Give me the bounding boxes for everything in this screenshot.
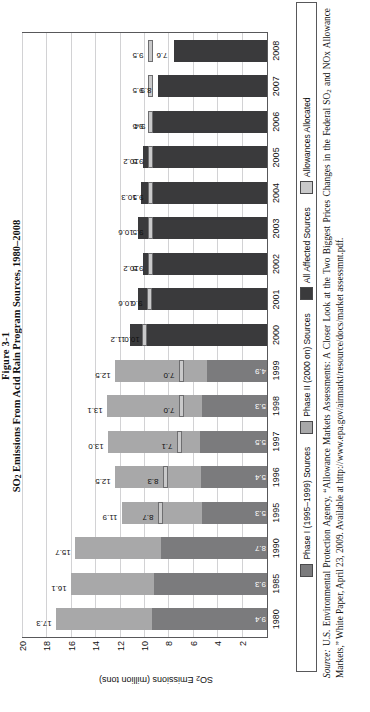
bar-column[interactable]: 9.610.62001 bbox=[23, 288, 267, 310]
legend-swatch-phase-i bbox=[300, 564, 313, 577]
allowances-allocated-marker bbox=[147, 288, 152, 310]
chart-plot-area: SO2 Emissions (million tons) 20181614121… bbox=[22, 32, 290, 678]
bar-segment-phase-i: 5.3 bbox=[202, 502, 267, 524]
legend-swatch-phase-ii bbox=[300, 421, 313, 434]
bar-column[interactable]: 9.58.92007 bbox=[23, 75, 267, 97]
bar-column[interactable]: 10.011.22000 bbox=[23, 324, 267, 346]
y-axis-tick: 2 bbox=[238, 641, 248, 646]
bar-column[interactable]: 5.38.711.91995 bbox=[23, 502, 267, 524]
bar-segment-phase-ii bbox=[71, 573, 154, 595]
bar-total-label: 15.7 bbox=[56, 548, 72, 557]
source-prefix: Source: bbox=[322, 649, 332, 678]
bar-segment-phase-i: 5.4 bbox=[201, 466, 267, 488]
bar-segment-all-affected bbox=[138, 217, 267, 239]
bar-total-label: 11.9 bbox=[102, 513, 117, 522]
allowances-allocated-marker bbox=[148, 253, 153, 275]
x-axis-tick: 2001 bbox=[271, 289, 281, 309]
legend-item-label: Phase II (2000 on) Sources bbox=[302, 313, 312, 416]
bar-value-label-phase-i: 9.3 bbox=[255, 579, 266, 588]
bar-column[interactable]: 9.510.22002 bbox=[23, 253, 267, 275]
bar-total-label: 16.1 bbox=[51, 584, 67, 593]
bar-segment-phase-ii bbox=[115, 360, 208, 382]
legend-swatch-all-affected bbox=[300, 287, 313, 300]
y-axis-tick: 8 bbox=[164, 641, 174, 646]
bar-segment-all-affected bbox=[143, 253, 267, 275]
x-axis-tick: 2005 bbox=[271, 147, 281, 167]
allowances-value-label: 9.5 bbox=[133, 228, 144, 237]
x-axis-tick: 2007 bbox=[271, 76, 281, 96]
bar-total-label: 12.5 bbox=[95, 371, 111, 380]
legend-item-label: Allowances Allocated bbox=[302, 97, 312, 177]
bar-segment-all-affected bbox=[138, 288, 267, 310]
bar-column[interactable]: 9.510.22005 bbox=[23, 146, 267, 168]
bar-column[interactable]: 9.417.31980 bbox=[23, 608, 267, 630]
y-axis-tick: 16 bbox=[67, 641, 77, 651]
x-axis-tick: 1980 bbox=[271, 609, 281, 629]
bar-total-label: 10.2 bbox=[123, 264, 139, 273]
allowances-value-label: 7.1 bbox=[162, 442, 173, 451]
y-axis-tick: 12 bbox=[116, 641, 126, 651]
chart-legend: Phase I (1995–1999) SourcesPhase II (200… bbox=[296, 2, 317, 672]
allowances-allocated-marker bbox=[148, 217, 153, 239]
bar-total-label: 10.6 bbox=[118, 300, 134, 309]
source-text-sub: 2 bbox=[325, 89, 333, 93]
x-axis-tick: 2008 bbox=[271, 41, 281, 61]
bar-total-label: 11.2 bbox=[111, 335, 126, 344]
figure-title-post: Emissions From Acid Rain Program Sources… bbox=[11, 220, 22, 475]
y-axis-label-pre: SO bbox=[200, 675, 213, 685]
legend-item[interactable]: Allowances Allocated bbox=[300, 97, 313, 194]
legend-swatch-allowances bbox=[300, 181, 313, 194]
bar-column[interactable]: 9.57.62008 bbox=[23, 40, 267, 62]
bar-segment-phase-i: 9.3 bbox=[154, 573, 267, 595]
y-axis-label-post: Emissions (million tons) bbox=[99, 675, 196, 685]
figure-number: Figure 3-1 bbox=[0, 0, 11, 712]
allowances-allocated-marker bbox=[148, 182, 153, 204]
bar-segment-all-affected bbox=[130, 324, 267, 346]
bar-column[interactable]: 9.59.42006 bbox=[23, 111, 267, 133]
bar-segment-phase-ii bbox=[75, 537, 160, 559]
bar-value-label-phase-i: 4.9 bbox=[255, 366, 266, 375]
legend-item[interactable]: All Affected Sources bbox=[300, 207, 313, 300]
source-note: Source: U.S. Environmental Protection Ag… bbox=[322, 8, 347, 678]
bar-segment-phase-i: 5.3 bbox=[202, 395, 267, 417]
x-axis-tick: 2006 bbox=[271, 112, 281, 132]
allowances-allocated-marker bbox=[158, 502, 163, 524]
bar-column[interactable]: 5.37.013.11998 bbox=[23, 395, 267, 417]
allowances-allocated-marker bbox=[179, 395, 184, 417]
y-axis-tick: 4 bbox=[213, 641, 223, 646]
y-axis-tick: 10 bbox=[140, 641, 150, 651]
allowances-allocated-marker bbox=[148, 40, 153, 62]
chart-frame: 20181614121086429.417.319809.316.119858.… bbox=[22, 32, 268, 638]
bar-value-label-phase-i: 5.3 bbox=[255, 402, 266, 411]
bar-segment-phase-ii bbox=[108, 431, 200, 453]
allowances-value-label: 7.0 bbox=[163, 371, 174, 380]
source-text-a: U.S. Environmental Protection Agency, “A… bbox=[322, 93, 332, 650]
bar-column[interactable]: 4.97.012.51999 bbox=[23, 360, 267, 382]
allowances-allocated-marker bbox=[177, 431, 182, 453]
y-axis-tick: 14 bbox=[91, 641, 101, 651]
bar-value-label-phase-i: 5.3 bbox=[255, 508, 266, 517]
bar-column[interactable]: 9.510.32004 bbox=[23, 182, 267, 204]
y-axis-tick: 18 bbox=[42, 641, 52, 651]
bar-total-label: 10.3 bbox=[122, 193, 138, 202]
allowances-value-label: 10.0 bbox=[124, 335, 140, 344]
legend-item-label: Phase I (1995–1999) Sources bbox=[302, 447, 312, 560]
legend-item[interactable]: Phase I (1995–1999) Sources bbox=[300, 447, 313, 577]
bar-column[interactable]: 5.57.113.01997 bbox=[23, 431, 267, 453]
x-axis-tick: 1998 bbox=[271, 396, 281, 416]
allowances-allocated-marker bbox=[148, 111, 153, 133]
x-axis-tick: 1999 bbox=[271, 361, 281, 381]
x-axis-tick: 2003 bbox=[271, 218, 281, 238]
allowances-value-label: 9.5 bbox=[133, 51, 144, 60]
bar-total-label: 10.2 bbox=[123, 157, 139, 166]
bar-value-label-phase-i: 8.7 bbox=[255, 544, 266, 553]
bar-column[interactable]: 9.316.11985 bbox=[23, 573, 267, 595]
legend-item[interactable]: Phase II (2000 on) Sources bbox=[300, 313, 313, 433]
bar-total-label: 8.9 bbox=[141, 86, 152, 95]
bar-column[interactable]: 5.48.312.51996 bbox=[23, 466, 267, 488]
bar-column[interactable]: 9.510.62003 bbox=[23, 217, 267, 239]
bar-segment-all-affected bbox=[141, 182, 267, 204]
bar-column[interactable]: 8.715.71990 bbox=[23, 537, 267, 559]
bar-total-label: 17.3 bbox=[36, 619, 52, 628]
bar-value-label-phase-i: 5.4 bbox=[255, 473, 266, 482]
